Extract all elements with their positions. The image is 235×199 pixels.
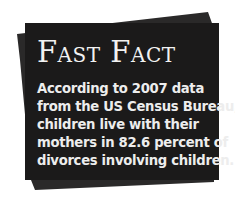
fast-fact-title: Fast Fact bbox=[37, 36, 176, 68]
body-line: children live with their bbox=[37, 116, 217, 134]
body-line: from the US Census Bureau, bbox=[37, 98, 217, 116]
fast-fact-body: According to 2007 data from the US Censu… bbox=[37, 80, 217, 170]
body-line: mothers in 82.6 percent of bbox=[37, 134, 217, 152]
body-line: divorces involving children. bbox=[37, 152, 217, 170]
body-line: According to 2007 data bbox=[37, 80, 217, 98]
